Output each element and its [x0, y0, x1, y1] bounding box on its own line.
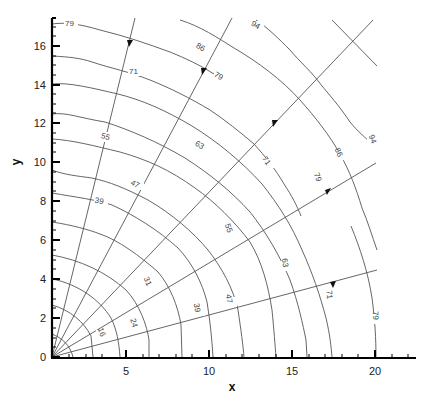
arrowheads	[127, 40, 336, 288]
contour-label-71: 71	[129, 67, 138, 76]
y-tick-label: 12	[34, 117, 46, 129]
y-tick-label: 10	[34, 156, 46, 168]
x-tick-labels: 5 10 15 20	[123, 365, 381, 377]
y-tick-label: 16	[34, 40, 46, 52]
ray-13	[52, 270, 377, 357]
contour-79-right	[351, 226, 376, 357]
contour-label-79: 79	[371, 311, 380, 321]
ray-45	[52, 20, 373, 357]
arrow-icon	[272, 120, 278, 127]
contour-label-79: 79	[65, 19, 74, 28]
x-axis-title: x	[229, 380, 236, 394]
y-axis-title: y	[9, 158, 23, 165]
contour-plot: 79 71 86 94 79 55 63 71 86 79 94 47 39 5…	[0, 0, 430, 406]
cross-segment	[332, 20, 377, 66]
contour-63	[52, 139, 276, 357]
y-tick-label: 14	[34, 79, 46, 91]
arrow-icon	[325, 188, 331, 195]
y-tick-label: 6	[40, 234, 46, 246]
arrow-icon	[201, 68, 207, 75]
y-tick-label: 2	[40, 312, 46, 324]
x-tick-label: 15	[286, 365, 298, 377]
contour-label-71: 71	[324, 290, 334, 300]
contour-71	[52, 114, 307, 357]
contour-71-mid	[52, 56, 301, 216]
contour-labels: 79 71 86 94 79 55 63 71 86 79 94 47 39 5…	[64, 18, 383, 340]
y-tick-label: 4	[40, 273, 46, 285]
y-tick-labels: 0 2 4 6 8 10 12 14 16 18	[34, 40, 46, 363]
x-tick-label: 10	[203, 365, 215, 377]
ray-75	[52, 18, 135, 357]
y-tick-label: 8	[40, 195, 46, 207]
x-tick-label: 5	[123, 365, 129, 377]
contour-24	[52, 279, 120, 357]
arrow-icon	[330, 281, 336, 288]
streamlines	[52, 18, 377, 357]
contour-86	[180, 20, 377, 250]
x-tick-label: 20	[369, 365, 381, 377]
y-tick-label: 0	[40, 351, 46, 363]
